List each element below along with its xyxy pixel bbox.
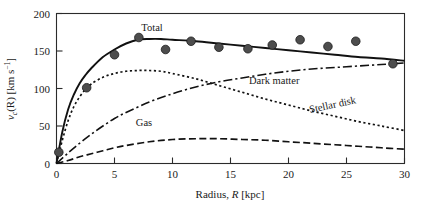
annotation-total: Total: [141, 22, 163, 33]
y-tick-label: 50: [39, 120, 51, 132]
data-point: [244, 44, 253, 53]
chart-page: 0 5 10 15 20 25 30 0 50 100 150 200 Radi…: [0, 0, 423, 213]
y-axis-title-paren: (R) [km s: [4, 70, 17, 112]
data-point: [324, 42, 333, 51]
y-tickmarks: [57, 14, 63, 164]
y-tick-label: 100: [34, 83, 51, 95]
data-point: [351, 37, 360, 46]
svg-text:vc(R) [km s−1]: vc(R) [km s−1]: [3, 58, 19, 120]
x-axis-title-prefix: Radius,: [196, 188, 232, 200]
y-axis-title-close: ]: [4, 58, 16, 62]
y-tick-label: 150: [34, 45, 51, 57]
x-tick-labels: 0 5 10 15 20 25 30: [54, 168, 411, 180]
observed-datapoints: [55, 33, 398, 156]
x-axis-title-suffix: [kpc]: [238, 188, 264, 200]
data-point: [187, 37, 196, 46]
data-point: [55, 148, 64, 157]
x-tick-label: 30: [399, 168, 411, 180]
x-tick-label: 20: [283, 168, 295, 180]
data-point: [161, 45, 170, 54]
x-tick-label: 0: [54, 168, 60, 180]
annotation-stellar-disk: Stellar disk: [308, 94, 358, 115]
x-tick-label: 10: [167, 168, 179, 180]
data-point: [296, 35, 305, 44]
x-tick-label: 15: [225, 168, 237, 180]
y-axis-title: vc(R) [km s−1]: [3, 58, 19, 120]
y-axis-title-superscript: −1: [3, 61, 12, 69]
x-tick-label: 5: [112, 168, 118, 180]
data-point: [389, 59, 398, 68]
annotation-dark-matter: Dark matter: [249, 75, 300, 86]
rotation-curve-chart: 0 5 10 15 20 25 30 0 50 100 150 200 Radi…: [0, 0, 423, 213]
data-point: [110, 50, 119, 59]
x-tickmarks: [57, 158, 405, 164]
annotation-gas: Gas: [136, 117, 152, 128]
x-axis-title: Radius, R [kpc]: [196, 188, 265, 200]
svg-text:Radius, R [kpc]: Radius, R [kpc]: [196, 188, 265, 200]
data-point: [135, 33, 144, 42]
y-tick-label: 200: [34, 8, 51, 20]
y-tick-labels: 0 50 100 150 200: [34, 8, 51, 170]
y-tick-label: 0: [45, 158, 51, 170]
data-point: [215, 43, 224, 52]
x-tick-label: 25: [341, 168, 353, 180]
data-point: [82, 83, 91, 92]
data-point: [268, 41, 277, 50]
